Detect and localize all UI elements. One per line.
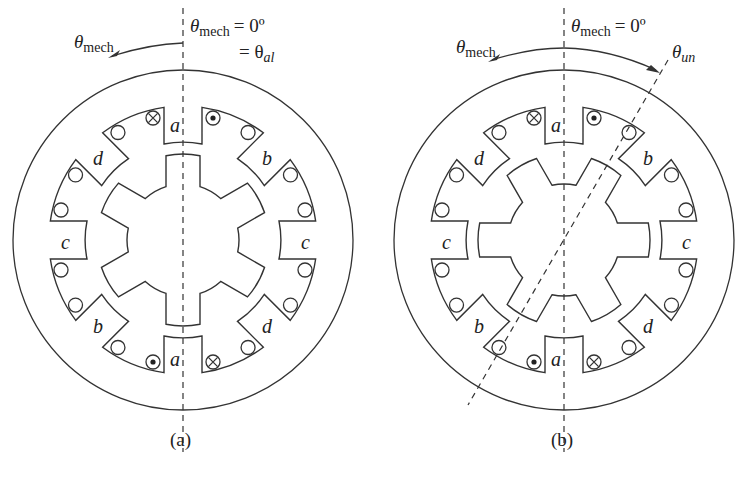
stator-pole-label-b: b — [643, 147, 653, 169]
coil-conductor — [241, 126, 255, 140]
theta-mech-arrow-left — [492, 48, 564, 60]
aligned-position-label: = θal — [239, 41, 275, 65]
stator-pole-label-c: c — [301, 231, 310, 253]
panel-b-unaligned-position: abcdabcd θmech θmech= 0º θun (b) — [394, 8, 734, 452]
current-out-of-page-icon — [150, 359, 155, 364]
coil-conductor — [492, 126, 506, 140]
stator-pole-label-a: a — [170, 114, 180, 136]
stator-pole-label-d: d — [474, 147, 485, 169]
stator-pole-label-b: b — [93, 315, 103, 337]
theta-mech-arrow-label: θmech — [456, 36, 496, 60]
reference-line-label: θmech= 0º — [190, 15, 265, 39]
current-out-of-page-icon — [531, 359, 536, 364]
theta-mech-arrow-label: θmech — [74, 31, 114, 55]
theta-un-arrow-right — [564, 48, 656, 70]
coil-conductor — [283, 298, 297, 312]
coil-conductor — [622, 340, 636, 354]
coil-conductor — [664, 168, 678, 182]
current-out-of-page-icon — [210, 115, 215, 120]
coil-conductor — [435, 203, 449, 217]
coil-conductor — [298, 203, 312, 217]
coil-conductor — [435, 263, 449, 277]
coil-conductor — [111, 340, 125, 354]
stator-pole-label-d: d — [93, 147, 104, 169]
panel-caption: (a) — [170, 429, 191, 451]
coil-conductor — [283, 168, 297, 182]
coil-conductor — [241, 340, 255, 354]
coil-conductor — [69, 168, 83, 182]
coil-conductor — [679, 203, 693, 217]
coil-conductor — [492, 340, 506, 354]
stator-pole-label-c: c — [682, 231, 691, 253]
coil-conductor — [111, 126, 125, 140]
stator-pole-label-c: c — [442, 231, 451, 253]
current-out-of-page-icon — [591, 115, 596, 120]
coil-conductor — [679, 263, 693, 277]
stator-pole-label-d: d — [643, 315, 654, 337]
panel-a-aligned-position: abcdabcd θmech θmech= 0º = θal (a) — [13, 8, 353, 452]
unaligned-position-label: θun — [672, 41, 695, 65]
stator-pole-label-a: a — [170, 348, 180, 370]
switched-reluctance-motor-diagram: abcdabcd θmech θmech= 0º = θal (a) abcda… — [0, 0, 754, 478]
stator-pole-label-d: d — [262, 315, 273, 337]
theta-mech-arrow — [112, 43, 183, 56]
coil-conductor — [450, 168, 464, 182]
coil-conductor — [54, 263, 68, 277]
coil-conductor — [664, 298, 678, 312]
stator-pole-label-b: b — [262, 147, 272, 169]
panel-caption: (b) — [551, 429, 573, 451]
reference-line-label: θmech= 0º — [571, 15, 646, 39]
stator-pole-label-a: a — [551, 114, 561, 136]
stator-pole-label-b: b — [474, 315, 484, 337]
coil-conductor — [69, 298, 83, 312]
coil-conductor — [298, 263, 312, 277]
stator-pole-label-c: c — [61, 231, 70, 253]
coil-conductor — [54, 203, 68, 217]
coil-conductor — [450, 298, 464, 312]
stator-pole-label-a: a — [551, 348, 561, 370]
